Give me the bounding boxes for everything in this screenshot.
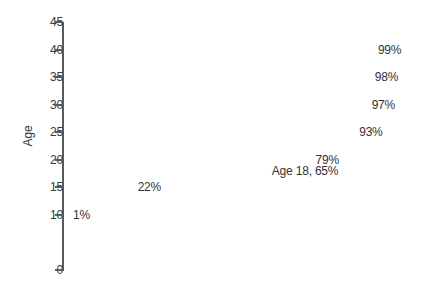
y-tick-30: 30 bbox=[0, 99, 63, 111]
bar-value-label-40: 99% bbox=[378, 43, 401, 57]
y-axis-line bbox=[62, 22, 64, 271]
y-tick-15: 15 bbox=[0, 181, 63, 193]
bar-row[interactable]: 99% bbox=[63, 44, 372, 56]
y-tick-40: 40 bbox=[0, 44, 63, 56]
bar-row[interactable]: 1% bbox=[63, 209, 67, 221]
y-tick-0: 0 bbox=[0, 264, 63, 276]
bar-row[interactable]: 22% bbox=[63, 181, 132, 193]
y-tick-mark bbox=[55, 214, 63, 216]
y-tick-mark bbox=[55, 159, 63, 161]
y-tick-20: 20 bbox=[0, 154, 63, 166]
bar-value-label-10: 1% bbox=[73, 208, 90, 222]
bar-value-label-15: 22% bbox=[138, 180, 161, 194]
y-tick-mark bbox=[55, 21, 63, 23]
y-tick-45: 45 bbox=[0, 16, 63, 28]
y-tick-35: 35 bbox=[0, 71, 63, 83]
bar-value-label-25: 93% bbox=[359, 125, 382, 139]
y-tick-25: 25 bbox=[0, 126, 63, 138]
y-tick-mark bbox=[55, 131, 63, 133]
y-tick-mark bbox=[55, 104, 63, 106]
bar-row[interactable]: Age 18, 65% bbox=[63, 165, 266, 177]
bar-row[interactable]: 97% bbox=[63, 99, 366, 111]
bar-row[interactable]: 93% bbox=[63, 126, 353, 138]
y-tick-mark bbox=[55, 186, 63, 188]
y-tick-mark bbox=[55, 76, 63, 78]
bar-chart: Age 45403530252015100 99%98%97%93%79%Age… bbox=[0, 0, 425, 290]
y-tick-mark bbox=[55, 269, 63, 271]
bar-value-label-35: 98% bbox=[375, 70, 398, 84]
bar-row[interactable]: 98% bbox=[63, 71, 369, 83]
y-tick-10: 10 bbox=[0, 209, 63, 221]
bar-value-label-30: 97% bbox=[372, 98, 395, 112]
y-tick-mark bbox=[55, 49, 63, 51]
bar-value-label-18: Age 18, 65% bbox=[272, 164, 339, 178]
